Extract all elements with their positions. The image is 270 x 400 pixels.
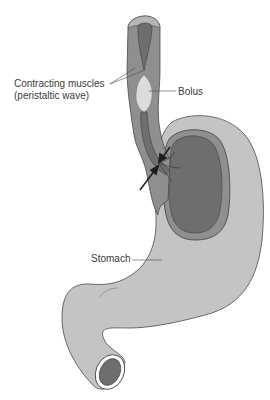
contracting-muscles-label: Contracting muscles (peristaltic wave) (14, 78, 105, 102)
contracting-muscles-label-line2: (peristaltic wave) (14, 90, 105, 102)
stomach-label: Stomach (91, 253, 130, 265)
stomach-lumen (169, 136, 222, 233)
bolus-label: Bolus (178, 86, 203, 98)
esophagus-stomach-diagram (0, 0, 270, 400)
contracting-muscles-label-line1: Contracting muscles (14, 78, 105, 90)
